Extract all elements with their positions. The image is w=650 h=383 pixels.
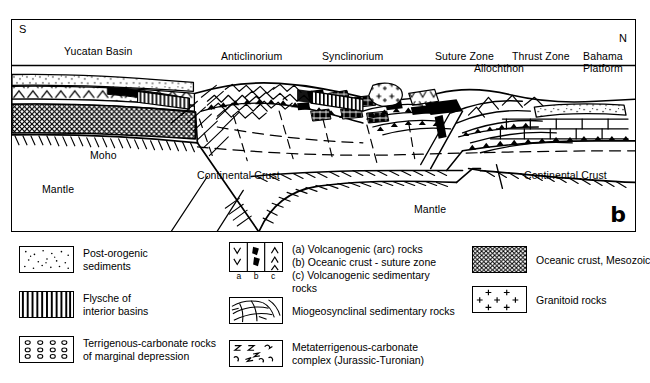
legend-item-miogeosynclinal-sedimentary-rocks: Miogeosynclinal sedimentary rocks — [229, 297, 455, 324]
swatch-stipple — [19, 246, 74, 273]
legend-item-flysche-interior-basins: Flysche of interior basins — [19, 291, 148, 318]
surface-label-thrust-zone: Thrust Zone — [512, 51, 570, 63]
surface-label-allochthon: Allochthon — [474, 63, 524, 75]
swatch-sublabel-b: b — [254, 271, 259, 281]
panel-letter: b — [610, 204, 626, 226]
interior-label-mantle-right: Mantle — [414, 204, 446, 216]
cross-section-panel: S N Yucatan Basin Anticlinorium Synclino… — [11, 19, 636, 232]
interior-label-continental-crust-left: Continental Crust — [197, 170, 280, 182]
legend-label-volcanogenic-oceanic-abc: (a) Volcanogenic (arc) rocks (b) Oceanic… — [283, 242, 436, 296]
legend-item-terrigenous-carbonate-rocks: Terrigenous-carbonate rocks of marginal … — [19, 336, 216, 363]
swatch-abc-triple: a b c — [229, 242, 283, 272]
swatch-circles — [19, 336, 74, 363]
legend-item-oceanic-crust-mesozoic: Oceanic crust, Mesozoic — [472, 246, 650, 273]
legend-label-flysche-interior-basins: Flysche of interior basins — [74, 291, 148, 318]
surface-label-yucatan-basin: Yucatan Basin — [64, 46, 132, 58]
interior-label-continental-crust-right: Continental Crust — [524, 170, 607, 182]
swatch-plus-signs — [472, 286, 527, 313]
surface-label-synclinorium: Synclinorium — [322, 51, 383, 63]
orientation-label-north: N — [619, 32, 627, 44]
legend: Post-orogenic sediments — [0, 236, 647, 383]
legend-label-granitoid-rocks: Granitoid rocks — [527, 286, 607, 307]
surface-label-bahama-platform: Bahama Platform — [583, 51, 623, 75]
legend-item-post-orogenic-sediments: Post-orogenic sediments — [19, 246, 148, 273]
interior-label-moho: Moho — [90, 150, 117, 162]
interior-label-mantle-left: Mantle — [42, 184, 74, 196]
legend-label-metaterrigenous-carbonate-complex: Metaterrigenous-carbonate complex (Juras… — [283, 340, 424, 367]
orientation-label-south: S — [19, 23, 26, 35]
swatch-abc-sublabels: a b c — [230, 271, 282, 282]
legend-label-oceanic-crust-mesozoic: Oceanic crust, Mesozoic — [527, 246, 650, 267]
swatch-sublabel-c: c — [271, 271, 275, 281]
legend-label-terrigenous-carbonate-rocks: Terrigenous-carbonate rocks of marginal … — [74, 336, 216, 363]
legend-item-granitoid-rocks: Granitoid rocks — [472, 286, 607, 313]
swatch-crosshatch — [472, 246, 527, 273]
surface-label-anticlinorium: Anticlinorium — [221, 51, 282, 63]
swatch-squiggles — [229, 340, 283, 367]
swatch-curved-lines — [229, 297, 283, 324]
swatch-sublabel-a: a — [236, 271, 241, 281]
swatch-vertical-stripes — [19, 291, 74, 318]
legend-label-post-orogenic-sediments: Post-orogenic sediments — [74, 246, 148, 273]
legend-item-volcanogenic-oceanic-abc: a b c (a) Volcanogenic (arc) rocks (b) O… — [229, 242, 436, 296]
legend-label-miogeosynclinal-sedimentary-rocks: Miogeosynclinal sedimentary rocks — [283, 297, 455, 318]
legend-item-metaterrigenous-carbonate-complex: Metaterrigenous-carbonate complex (Juras… — [229, 340, 424, 367]
surface-label-suture-zone: Suture Zone — [435, 51, 494, 63]
